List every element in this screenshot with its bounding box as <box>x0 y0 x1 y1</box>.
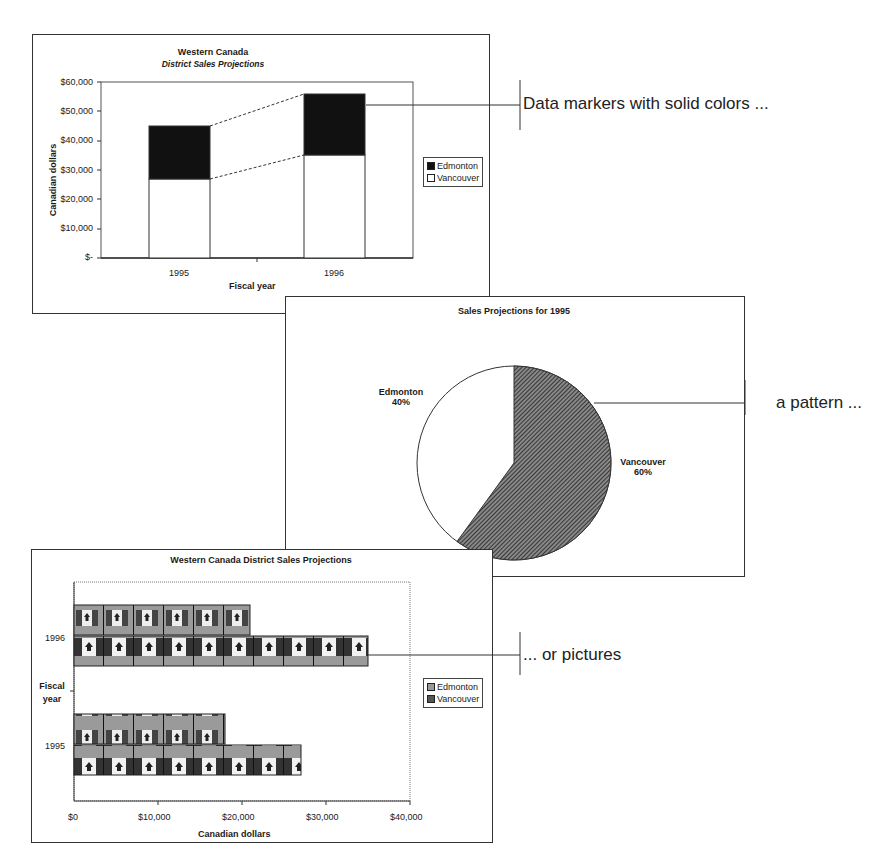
legend-item-edmonton: Edmonton <box>427 681 479 693</box>
callout-pattern: a pattern ... <box>776 393 862 413</box>
swatch-flag-dark <box>427 695 435 703</box>
swatch-white <box>427 174 435 182</box>
legend: Edmonton Vancouver <box>423 678 483 708</box>
pie-label-vancouver: Vancouver 60% <box>608 457 678 477</box>
callout-pictures: ... or pictures <box>523 645 621 665</box>
x-axis-label: Canadian dollars <box>198 829 271 839</box>
pie-label-edmonton: Edmonton 40% <box>371 387 431 407</box>
bar-1995-edmonton <box>149 126 210 179</box>
legend-item-vancouver: Vancouver <box>427 693 479 705</box>
bar-1996-vancouver <box>304 155 365 258</box>
x-tick: $20,000 <box>222 812 255 822</box>
x-axis-label: Fiscal year <box>229 281 276 291</box>
bar-1995-vancouver <box>74 745 301 775</box>
callout-solid-colors: Data markers with solid colors ... <box>523 94 769 114</box>
legend-item-vancouver: Vancouver <box>427 172 479 184</box>
chart-panel-stacked-column: Western Canada District Sales Projection… <box>32 34 490 314</box>
x-tick: $30,000 <box>306 812 339 822</box>
swatch-solid-black <box>427 162 435 170</box>
bar-1995-vancouver <box>149 179 210 258</box>
plot-area <box>33 35 489 313</box>
chart-panel-picture-bars: Western Canada District Sales Projection… <box>31 549 493 843</box>
legend: Edmonton Vancouver <box>423 157 483 187</box>
y-tick: 1995 <box>45 741 65 751</box>
bar-1995-edmonton <box>74 714 225 744</box>
bar-1996-edmonton <box>304 94 365 155</box>
bar-1996-edmonton <box>74 605 250 635</box>
x-tick: 1995 <box>169 268 189 278</box>
x-tick: 1996 <box>324 268 344 278</box>
chart-panel-pie: Sales Projections for 1995 Edmonton 40% … <box>285 296 745 577</box>
pie-plot <box>286 297 744 576</box>
swatch-flag-light <box>427 683 435 691</box>
legend-item-edmonton: Edmonton <box>427 160 479 172</box>
bar-1996-vancouver <box>74 636 368 666</box>
x-tick: $0 <box>68 812 78 822</box>
x-tick: $40,000 <box>390 812 423 822</box>
y-tick: 1996 <box>45 633 65 643</box>
y-axis-label: Fiscal year <box>34 680 70 706</box>
x-tick: $10,000 <box>138 812 171 822</box>
